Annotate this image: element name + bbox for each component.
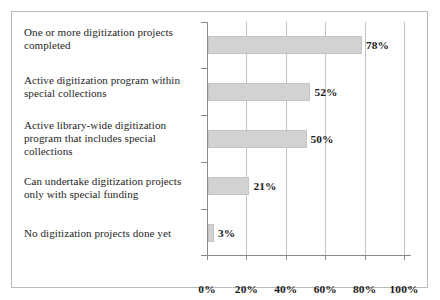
y-axis-tick-4 [201, 209, 207, 210]
x-axis-tick-100 [404, 255, 405, 260]
plot-area: 78% 52% 50% 21% 3% 0% 20% 40% 60% 80% 10… [207, 22, 404, 255]
category-label-3: Can undertake digitization projects only… [24, 175, 202, 201]
category-label-column: One or more digitization projects comple… [0, 0, 196, 300]
y-axis-tick-3 [201, 162, 207, 163]
x-axis-tick-40 [286, 255, 287, 260]
bar-value-3: 21% [254, 177, 277, 195]
bar-value-1: 52% [315, 83, 338, 101]
x-tick-label-100: 100% [379, 283, 429, 295]
bar-3 [208, 177, 249, 195]
x-axis-tick-80 [365, 255, 366, 260]
x-axis-tick-20 [246, 255, 247, 260]
x-axis-tick-60 [325, 255, 326, 260]
y-axis-tick-0 [201, 22, 207, 23]
category-label-1: Active digitization program within speci… [24, 74, 202, 100]
gridline-100 [404, 22, 405, 255]
category-label-0: One or more digitization projects comple… [24, 26, 202, 52]
bar-1 [208, 83, 310, 101]
bar-4 [208, 224, 214, 242]
category-label-2: Active library-wide digitization program… [24, 119, 202, 157]
x-axis-tick-0 [207, 255, 208, 260]
y-axis-tick-1 [201, 68, 207, 69]
category-label-4: No digitization projects done yet [24, 227, 202, 240]
bar-value-4: 3% [218, 224, 235, 242]
bar-0 [208, 36, 362, 54]
y-axis-tick-2 [201, 115, 207, 116]
bar-value-0: 78% [366, 36, 389, 54]
bar-value-2: 50% [311, 130, 334, 148]
gridline-80 [365, 22, 366, 255]
x-axis-line [201, 255, 411, 256]
bar-2 [208, 130, 307, 148]
chart-screenshot: One or more digitization projects comple… [0, 0, 440, 300]
